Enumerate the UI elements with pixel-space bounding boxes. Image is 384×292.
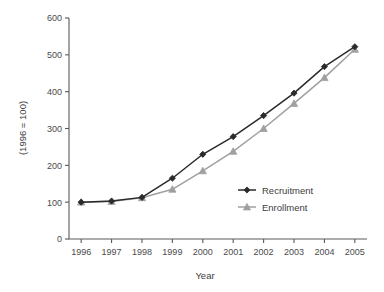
y-tick-label: 300 [47,124,62,134]
y-tick-label: 100 [47,198,62,208]
series-enrollment [78,46,359,205]
data-point-marker [199,167,206,174]
legend-label: Enrollment [262,202,308,213]
legend-item-enrollment[interactable]: Enrollment [238,202,308,213]
line-chart: 0100200300400500600 19961997199819992000… [0,0,384,292]
x-tick-label: 1998 [132,247,152,257]
y-axis-ticks: 0100200300400500600 [47,13,69,244]
series-line [81,49,355,202]
x-axis-ticks: 1996199719981999200020012002200320042005 [71,239,365,257]
x-tick-label: 1997 [102,247,122,257]
y-tick-label: 200 [47,161,62,171]
x-tick-label: 2002 [254,247,274,257]
legend-item-recruitment[interactable]: Recruitment [238,185,314,196]
x-tick-label: 1999 [162,247,182,257]
y-tick-label: 400 [47,87,62,97]
x-tick-label: 2000 [193,247,213,257]
y-tick-label: 600 [47,13,62,23]
y-tick-label: 500 [47,50,62,60]
x-axis-label: Year [195,270,214,281]
chart-legend: RecruitmentEnrollment [238,185,314,213]
data-point-marker [169,186,176,193]
legend-label: Recruitment [262,185,314,196]
series-recruitment [78,44,358,206]
x-tick-label: 2004 [314,247,334,257]
x-tick-label: 2003 [284,247,304,257]
x-tick-label: 2005 [345,247,365,257]
data-point-marker [244,187,250,193]
x-tick-label: 2001 [223,247,243,257]
x-tick-label: 1996 [71,247,91,257]
chart-axes [69,18,367,239]
y-axis-label: (1996 = 100) [17,101,28,155]
series-line [81,47,355,202]
data-series-layer [78,44,359,206]
y-tick-label: 0 [57,234,62,244]
chart-canvas: 0100200300400500600 19961997199819992000… [0,0,384,292]
